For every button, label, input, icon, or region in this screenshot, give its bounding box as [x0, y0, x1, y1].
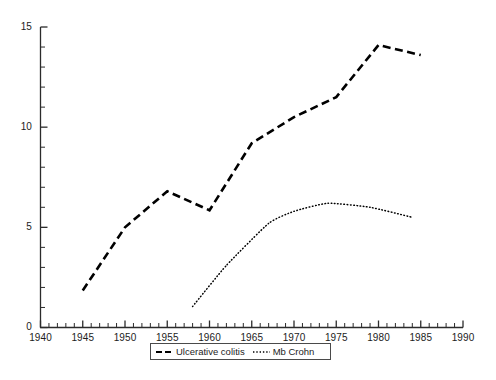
- x-axis-tick-label: 1990: [443, 332, 483, 343]
- legend-item-ulcerative-colitis: Ulcerative colitis: [156, 346, 245, 357]
- y-axis-tick-label: 15: [8, 21, 32, 32]
- x-axis-tick-label: 1975: [316, 332, 356, 343]
- axis-lines: [40, 27, 463, 328]
- chart-plot-area: [0, 0, 496, 380]
- x-axis-ticks: [41, 321, 464, 328]
- x-axis-tick-label: 1965: [232, 332, 272, 343]
- y-axis-ticks: [41, 27, 48, 328]
- series-line-ulcerative-colitis: [83, 45, 421, 290]
- x-axis-tick-label: 1970: [274, 332, 314, 343]
- legend-item-mb-crohn: Mb Crohn: [253, 346, 315, 357]
- dotted-line-icon: [253, 348, 270, 356]
- x-axis-tick-label: 1985: [401, 332, 441, 343]
- y-axis-tick-label: 0: [8, 321, 32, 332]
- chart-container: 051015 194019451950195519601965197019751…: [0, 0, 496, 380]
- series-line-mb-crohn: [193, 203, 413, 306]
- y-axis-tick-label: 10: [8, 121, 32, 132]
- x-axis-tick-label: 1980: [359, 332, 399, 343]
- legend-label-mb-crohn: Mb Crohn: [273, 346, 315, 357]
- data-series-layer: [83, 45, 421, 306]
- chart-legend: Ulcerative colitis Mb Crohn: [150, 343, 331, 360]
- y-axis-tick-label: 5: [8, 221, 32, 232]
- legend-label-ulcerative-colitis: Ulcerative colitis: [176, 346, 245, 357]
- x-axis-tick-label: 1940: [21, 332, 61, 343]
- x-axis-tick-label: 1955: [147, 332, 187, 343]
- x-axis-tick-label: 1960: [190, 332, 230, 343]
- x-axis-tick-label: 1945: [63, 332, 103, 343]
- dashed-line-icon: [156, 348, 173, 356]
- x-axis-tick-label: 1950: [105, 332, 145, 343]
